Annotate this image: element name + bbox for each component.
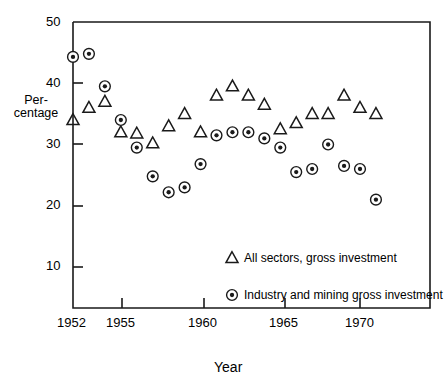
legend-label-industry-mining: Industry and mining gross investment bbox=[244, 289, 443, 301]
x-tick-label-1960: 1960 bbox=[188, 316, 217, 329]
data-point-industry-mining-1966 bbox=[291, 167, 302, 178]
axes-frame bbox=[73, 22, 430, 308]
data-point-industry-mining-1956 bbox=[131, 142, 142, 153]
y-axis-label-line-2: centage bbox=[8, 107, 64, 120]
data-point-all-sectors-1953 bbox=[83, 101, 95, 112]
data-point-industry-mining-1958 bbox=[163, 187, 174, 198]
data-point-industry-mining-1953 bbox=[84, 48, 95, 59]
data-point-all-sectors-1971 bbox=[370, 108, 382, 119]
y-tick-label-10: 10 bbox=[46, 259, 60, 272]
data-point-industry-mining-1952 bbox=[68, 52, 79, 63]
data-point-all-sectors-1955 bbox=[115, 126, 127, 137]
axis-box bbox=[73, 22, 430, 308]
data-point-all-sectors-1969 bbox=[338, 89, 350, 100]
y-axis-label: Per- centage bbox=[8, 94, 64, 119]
x-tick-label-1952: 1952 bbox=[57, 316, 86, 329]
series-all-sectors-markers bbox=[67, 80, 382, 148]
data-point-industry-mining-1960 bbox=[195, 159, 206, 170]
data-point-all-sectors-1965 bbox=[274, 123, 286, 134]
data-point-industry-mining-1961 bbox=[211, 130, 222, 141]
plot-area bbox=[0, 0, 444, 390]
data-point-industry-mining-1955 bbox=[115, 115, 126, 126]
legend-label-all-sectors: All sectors, gross investment bbox=[244, 252, 397, 264]
data-point-industry-mining-1965 bbox=[275, 142, 286, 153]
data-point-industry-mining-1971 bbox=[371, 194, 382, 205]
x-tick-label-1955: 1955 bbox=[106, 316, 135, 329]
data-point-all-sectors-1964 bbox=[258, 98, 270, 109]
data-point-industry-mining-1968 bbox=[323, 139, 334, 150]
data-point-industry-mining-1967 bbox=[307, 164, 318, 175]
data-point-all-sectors-1958 bbox=[163, 120, 175, 131]
series-industry-mining-markers bbox=[68, 48, 382, 205]
data-point-all-sectors-1963 bbox=[242, 89, 254, 100]
data-point-all-sectors-1954 bbox=[99, 95, 111, 106]
data-point-all-sectors-1968 bbox=[322, 108, 334, 119]
data-point-industry-mining-1969 bbox=[339, 161, 350, 172]
data-point-industry-mining-1964 bbox=[259, 133, 270, 144]
y-axis-ticks bbox=[73, 83, 83, 267]
data-point-industry-mining-1959 bbox=[179, 182, 190, 193]
y-tick-label-30: 30 bbox=[46, 137, 60, 150]
data-point-all-sectors-1967 bbox=[306, 108, 318, 119]
data-point-industry-mining-1957 bbox=[147, 171, 158, 182]
data-point-all-sectors-1970 bbox=[354, 101, 366, 112]
data-point-all-sectors-1959 bbox=[179, 108, 191, 119]
x-tick-label-1965: 1965 bbox=[269, 316, 298, 329]
y-tick-label-50: 50 bbox=[46, 15, 60, 28]
data-point-all-sectors-1956 bbox=[131, 127, 143, 138]
data-point-all-sectors-1960 bbox=[195, 126, 207, 137]
legend-marker-circle-dot bbox=[227, 290, 238, 301]
legend-markers bbox=[226, 252, 238, 301]
data-point-industry-mining-1954 bbox=[99, 81, 110, 92]
data-point-all-sectors-1957 bbox=[147, 137, 159, 148]
data-point-industry-mining-1970 bbox=[355, 164, 366, 175]
x-axis-title: Year bbox=[214, 360, 242, 374]
data-point-all-sectors-1962 bbox=[226, 80, 238, 91]
x-tick-label-1970: 1970 bbox=[345, 316, 374, 329]
data-point-all-sectors-1961 bbox=[211, 89, 223, 100]
legend-marker-triangle bbox=[226, 252, 238, 263]
y-axis-label-line-1: Per- bbox=[8, 94, 64, 107]
data-point-industry-mining-1962 bbox=[227, 127, 238, 138]
y-tick-label-40: 40 bbox=[46, 76, 60, 89]
data-point-industry-mining-1963 bbox=[243, 127, 254, 138]
y-tick-label-20: 20 bbox=[46, 198, 60, 211]
chart-figure: Per- centage 50 40 30 20 10 1952 1955 19… bbox=[0, 0, 444, 390]
data-point-all-sectors-1966 bbox=[290, 117, 302, 128]
